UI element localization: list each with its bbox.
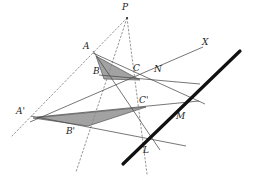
point-label-A: A [83,42,90,51]
point-label-B-prime: B' [66,127,75,136]
point-label-B: B [93,67,100,76]
point-label-P: P [122,3,128,12]
point-label-X: X [202,38,208,47]
side-line-AprimeBprime-extended [31,116,186,146]
point-label-N: N [154,65,162,74]
triangle-ApBpCp [33,107,146,126]
desargues-figure: P A B C N X C' M A' B' L [0,0,253,180]
point-label-L: L [143,146,149,155]
side-line-AB-extended [93,51,160,150]
point-label-M: M [176,112,185,121]
point-marker-P [126,17,128,19]
point-label-A-prime: A' [16,107,25,116]
point-label-C-prime: C' [139,96,148,105]
figure-canvas [0,0,253,180]
point-label-C: C [133,64,140,73]
